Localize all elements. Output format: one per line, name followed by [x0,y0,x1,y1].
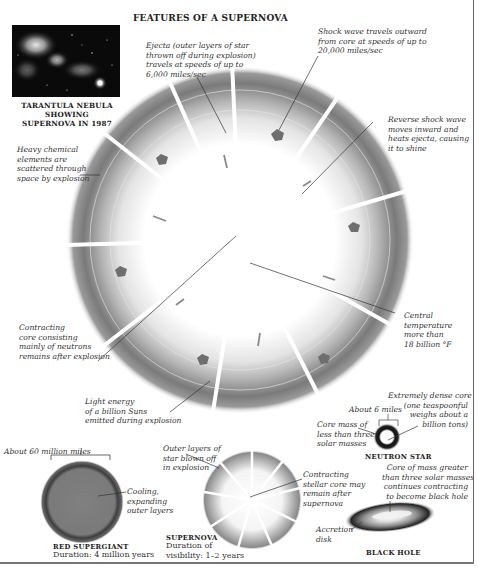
page-title: FEATURES OF A SUPERNOVA [133,13,288,23]
photo-caption-line2: SUPERNOVA IN 1987 [8,119,126,128]
photo-caption: TARANTULA NEBULA SHOWING SUPERNOVA IN 19… [8,101,126,128]
shock-wave-annotation: Shock wave travels outward from core at … [318,27,427,56]
accretion-disk-label: Accretion disk [316,525,353,544]
ejecta-annotation: Ejecta (outer layers of star thrown off … [146,41,256,79]
neutron-star-dense-core: Extremely dense core (one teaspoonful we… [388,391,468,429]
red-supergiant-duration: Duration: 4 million years [53,550,154,560]
frame-bottom-border [0,562,474,564]
supernova-duration-line1: Duration of [166,541,212,551]
tarantula-nebula-photo [12,25,120,97]
frame-right-border [473,0,474,563]
red-supergiant-graphic [40,450,126,544]
supernova-outer-layers: Outer layers of star blown off in explos… [163,444,221,473]
photo-caption-line1: TARANTULA NEBULA SHOWING [8,101,126,119]
light-energy-annotation: Light energy of a billion Suns emitted d… [85,397,181,426]
supernova-contracting-core: Contracting stellar core may remain afte… [303,470,365,508]
neutron-star-label: NEUTRON STAR [365,453,432,461]
black-hole-label: BLACK HOLE [366,549,421,557]
neutron-core-annotation: Contracting core consisting mainly of ne… [19,323,110,361]
neutron-star-core-mass: Core mass of less than three solar masse… [317,420,374,449]
red-supergiant-note: Cooling, expanding outer layers [127,487,173,516]
heavy-elements-annotation: Heavy chemical elements are scattered th… [17,145,89,183]
central-temperature-annotation: Central temperature more than 18 billion… [404,311,452,349]
reverse-shock-annotation: Reverse shock wave moves inward and heat… [388,115,469,153]
black-hole-core-mass: Core of mass greater than three solar ma… [382,463,468,501]
supernova-duration-line2: visibility: 1–2 years [166,551,244,561]
red-supergiant-size: About 60 million miles [4,447,91,457]
